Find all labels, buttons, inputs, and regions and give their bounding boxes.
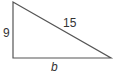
right-triangle	[13, 2, 111, 58]
hypotenuse-label: 15	[63, 16, 77, 30]
horizontal-leg-label: b	[51, 60, 58, 74]
triangle-diagram: 9 15 b	[0, 0, 116, 79]
vertical-leg-label: 9	[3, 26, 10, 40]
